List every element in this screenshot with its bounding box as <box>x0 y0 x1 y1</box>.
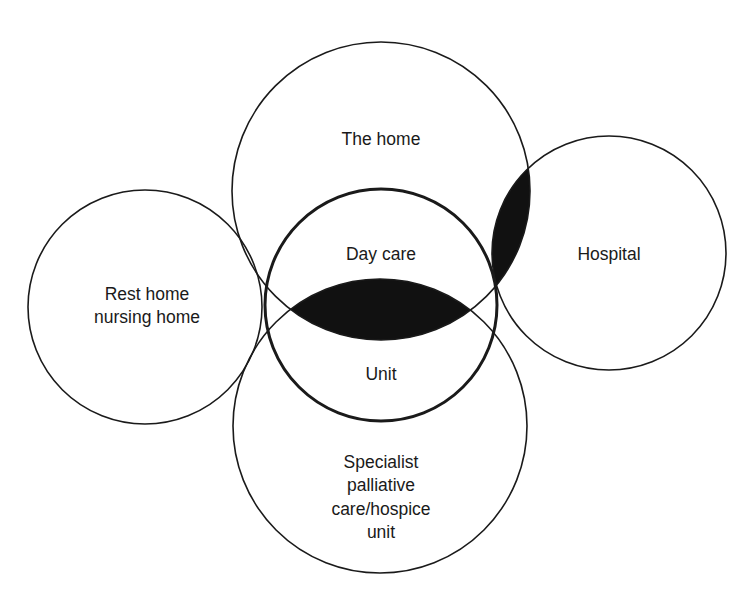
label-day-care: Day care <box>346 244 416 264</box>
label-specialist-line1: Specialist <box>344 452 419 472</box>
label-the-home: The home <box>342 129 421 149</box>
label-rest-home-line1: Rest home <box>105 284 190 304</box>
venn-diagram: The home Hospital Rest home nursing home… <box>0 0 749 594</box>
label-unit: Unit <box>365 364 396 384</box>
label-specialist-line2: palliative <box>347 475 415 495</box>
label-hospital: Hospital <box>577 244 640 264</box>
label-rest-home-line2: nursing home <box>94 307 200 327</box>
label-specialist-line4: unit <box>367 522 395 542</box>
label-specialist-line3: care/hospice <box>331 499 430 519</box>
